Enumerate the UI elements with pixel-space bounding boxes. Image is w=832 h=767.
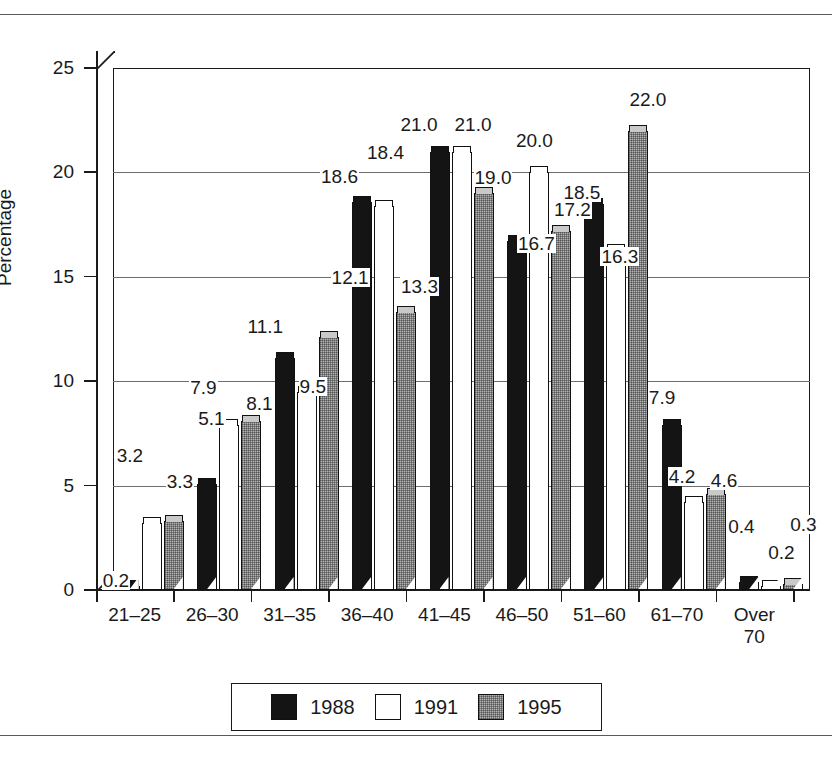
bar-1991-Over-70 bbox=[761, 586, 781, 590]
legend-item[interactable]: 1995 bbox=[478, 694, 562, 720]
black-filled-swatch bbox=[271, 694, 297, 720]
bar-1988-41–45 bbox=[430, 152, 450, 590]
value-label: 16.3 bbox=[600, 247, 639, 266]
bar-top-cap bbox=[397, 306, 415, 313]
bar-1988-Over-70 bbox=[739, 582, 759, 590]
value-label: 19.0 bbox=[474, 168, 513, 187]
bar-top-cap bbox=[353, 196, 371, 203]
plot-area: 0.23.23.35.17.98.111.19.512.118.618.413.… bbox=[113, 68, 810, 590]
y-tick-label: 15 bbox=[34, 267, 74, 286]
value-label: 3.3 bbox=[166, 472, 194, 491]
x-tick bbox=[483, 591, 485, 602]
bar-top-cap bbox=[552, 225, 570, 232]
value-label: 0.4 bbox=[727, 517, 755, 536]
bar-1988-61–70 bbox=[662, 425, 682, 590]
legend-label: 1995 bbox=[517, 696, 562, 719]
x-tick bbox=[561, 591, 563, 602]
white-empty-swatch bbox=[375, 694, 401, 720]
x-tick bbox=[251, 591, 253, 602]
bar-top-cap bbox=[530, 166, 548, 173]
bar-top-cap bbox=[143, 517, 161, 524]
value-label: 0.2 bbox=[102, 571, 130, 590]
x-tick bbox=[716, 591, 718, 602]
y-axis-line bbox=[96, 51, 98, 590]
bar-base-notch bbox=[251, 577, 260, 589]
bar-1995-61–70 bbox=[706, 494, 726, 590]
bar-1988-36–40 bbox=[352, 202, 372, 590]
value-label: 18.6 bbox=[320, 167, 359, 186]
legend-item[interactable]: 1988 bbox=[271, 694, 355, 720]
bar-1988-31–35 bbox=[275, 358, 295, 590]
y-tick-label: 10 bbox=[34, 371, 74, 390]
value-label: 11.1 bbox=[247, 317, 285, 336]
bar-base-notch bbox=[229, 577, 238, 589]
bar-1995-46–50 bbox=[551, 231, 571, 590]
bar-base-notch bbox=[694, 577, 703, 589]
bar-1988-46–50 bbox=[507, 241, 527, 590]
bar-1991-61–70 bbox=[684, 502, 704, 590]
x-axis-label: 51–60 bbox=[555, 604, 644, 626]
bar-base-notch bbox=[406, 577, 415, 589]
y-tick bbox=[84, 485, 97, 487]
value-label: 7.9 bbox=[189, 378, 217, 397]
value-label: 5.1 bbox=[197, 409, 225, 428]
bar-top-cap bbox=[276, 352, 294, 359]
bar-chart: 2520151050 Percentage 0.23.23.35.17.98.1… bbox=[0, 18, 832, 718]
plot-top-left-bevel bbox=[97, 51, 115, 69]
y-tick-label: 0 bbox=[34, 580, 74, 599]
bar-1991-36–40 bbox=[374, 206, 394, 590]
bar-top-cap bbox=[663, 419, 681, 426]
bar-1995-Over-70 bbox=[783, 584, 803, 590]
value-label: 4.6 bbox=[710, 471, 738, 490]
legend-label: 1988 bbox=[310, 696, 355, 719]
bar-top-cap bbox=[431, 146, 449, 153]
y-tick-label: 25 bbox=[34, 58, 74, 77]
bar-1995-51–60 bbox=[628, 131, 648, 590]
y-tick-label: 5 bbox=[34, 476, 74, 495]
x-axis-label: 26–30 bbox=[167, 604, 256, 626]
bar-top-cap bbox=[629, 125, 647, 132]
value-label: 18.5 bbox=[562, 183, 601, 202]
legend-item[interactable]: 1991 bbox=[375, 694, 459, 720]
chart-title-clipped bbox=[0, 12, 832, 20]
x-tick bbox=[638, 591, 640, 602]
bar-top-cap bbox=[165, 515, 183, 522]
bottom-horizontal-rule bbox=[0, 735, 832, 736]
bar-base-notch bbox=[616, 577, 625, 589]
bar-top-cap bbox=[475, 187, 493, 194]
bar-base-notch bbox=[517, 577, 526, 589]
bar-1991-41–45 bbox=[452, 152, 472, 590]
bar-1995-26–30 bbox=[241, 421, 261, 590]
y-axis-title: Percentage bbox=[0, 189, 16, 286]
value-label: 22.0 bbox=[628, 90, 667, 109]
bar-top-cap bbox=[375, 200, 393, 207]
bar-base-notch bbox=[716, 577, 725, 589]
bar-base-notch bbox=[152, 577, 161, 589]
x-axis-label: 21–25 bbox=[90, 604, 179, 626]
value-label: 16.7 bbox=[517, 234, 556, 253]
value-label: 4.2 bbox=[668, 467, 696, 486]
bar-top-cap bbox=[685, 496, 703, 503]
bar-base-notch bbox=[462, 577, 471, 589]
value-label: 9.5 bbox=[299, 377, 327, 396]
bar-1988-26–30 bbox=[197, 484, 217, 590]
y-tick bbox=[84, 67, 97, 69]
bar-base-notch bbox=[672, 577, 681, 589]
y-tick bbox=[84, 276, 97, 278]
bar-top-cap bbox=[320, 331, 338, 338]
chart-legend: 1988 1991 1995 bbox=[231, 683, 602, 731]
value-label: 3.2 bbox=[116, 446, 144, 465]
value-label: 20.0 bbox=[515, 131, 554, 150]
value-label: 0.2 bbox=[767, 543, 795, 562]
x-tick bbox=[793, 591, 795, 602]
value-label: 18.4 bbox=[366, 143, 405, 162]
x-tick bbox=[406, 591, 408, 602]
bar-base-notch bbox=[207, 577, 216, 589]
value-label: 0.3 bbox=[789, 515, 817, 534]
bar-base-notch bbox=[539, 577, 548, 589]
x-axis-label: 46–50 bbox=[477, 604, 566, 626]
x-axis-label: 41–45 bbox=[400, 604, 489, 626]
x-axis-label: 36–40 bbox=[322, 604, 411, 626]
bar-top-cap bbox=[242, 415, 260, 422]
x-tick bbox=[328, 591, 330, 602]
